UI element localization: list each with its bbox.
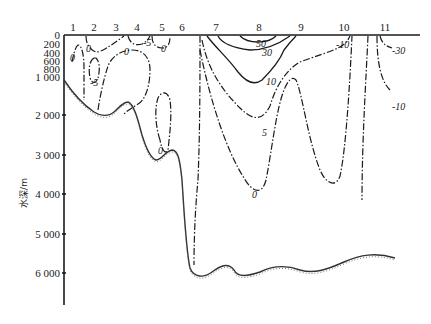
x-tick: 7: [213, 21, 219, 33]
x-tick: 4: [134, 21, 140, 33]
x-tick: 5: [159, 21, 165, 33]
contour-label: 0: [161, 43, 166, 54]
contour-label: 10: [266, 76, 276, 87]
contour-label: 0: [86, 43, 91, 54]
x-tick: 8: [256, 21, 262, 33]
contour-label: -5: [143, 37, 151, 48]
x-tick: 11: [380, 21, 391, 33]
contour-label: -5: [90, 77, 98, 88]
contour-label: 0: [70, 52, 75, 63]
contours-left: [72, 36, 200, 265]
contour-label: 0: [252, 189, 257, 200]
x-tick: 6: [179, 21, 185, 33]
x-tick: 9: [298, 21, 304, 33]
contour-label: 30: [261, 47, 272, 58]
x-tick: 2: [91, 21, 97, 33]
contour-label: -30: [392, 45, 405, 56]
contour-label: -10: [336, 39, 349, 50]
contour-label: 5: [262, 127, 267, 138]
contour-chart: 1 2 3 4 5 6 7 8 9 10 11 0 200 400 600 80…: [0, 0, 431, 324]
seafloor-profile: [64, 80, 395, 278]
contour-labels: 0 0 -5 0 -5 0 0 50 30 10 5 0 -10 -30 -10: [70, 37, 405, 200]
x-tick: 3: [113, 21, 119, 33]
y-tick: 4 000: [35, 188, 60, 200]
contours-right: [377, 36, 392, 90]
y-tick-labels-lower: 2 000 3 000 4 000 5 000 6 000: [35, 109, 66, 279]
x-tick-labels: 1 2 3 4 5 6 7 8 9 10 11: [70, 21, 390, 33]
y-tick: 1 000: [35, 71, 60, 83]
x-tick: 10: [339, 21, 351, 33]
y-axis-label: 水深/m: [18, 178, 29, 208]
contour-label: -10: [392, 101, 405, 112]
y-tick: 2 000: [35, 109, 60, 121]
y-tick: 5 000: [35, 228, 60, 240]
contour-label: 0: [158, 145, 163, 156]
y-tick: 3 000: [35, 149, 60, 161]
y-tick-labels-upper: 0 200 400 600 800 1 000: [35, 29, 60, 83]
y-tick: 6 000: [35, 267, 60, 279]
contour-label: 0: [124, 46, 129, 57]
x-tick: 1: [70, 21, 76, 33]
contours-center: [200, 36, 368, 200]
